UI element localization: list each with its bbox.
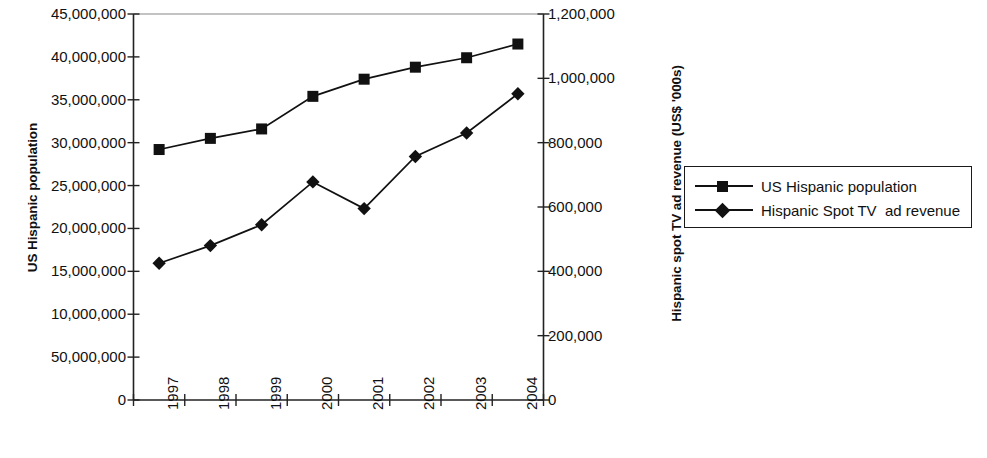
x-axis-tick-labels: 19971998199920002001200220032004 bbox=[0, 0, 987, 458]
x-axis-tick-label: 2004 bbox=[524, 377, 539, 410]
x-axis-tick-label: 2001 bbox=[370, 377, 385, 410]
x-axis-tick-label: 2002 bbox=[421, 377, 436, 410]
x-axis-tick-label: 1999 bbox=[268, 377, 283, 410]
legend-square-marker-icon bbox=[695, 179, 753, 193]
chart-legend: US Hispanic populationHispanic Spot TV a… bbox=[684, 166, 972, 228]
legend-label: Hispanic Spot TV ad revenue bbox=[761, 202, 960, 219]
legend-diamond-marker-icon bbox=[695, 203, 753, 217]
chart-figure: US Hispanic population Hispanic spot TV … bbox=[0, 0, 987, 458]
legend-key-marker bbox=[717, 181, 728, 192]
legend-key-marker bbox=[715, 202, 731, 218]
legend-entry: US Hispanic population bbox=[695, 174, 961, 198]
x-axis-tick-label: 1998 bbox=[216, 377, 231, 410]
x-axis-tick-label: 2003 bbox=[473, 377, 488, 410]
x-axis-tick-label: 2000 bbox=[319, 377, 334, 410]
x-axis-tick-label: 1997 bbox=[165, 377, 180, 410]
legend-entry: Hispanic Spot TV ad revenue bbox=[695, 198, 961, 222]
legend-label: US Hispanic population bbox=[761, 178, 917, 195]
